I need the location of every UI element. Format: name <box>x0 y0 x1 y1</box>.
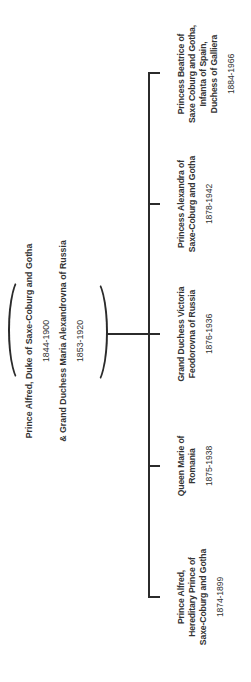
mother-years: 1853-1920 <box>75 191 86 491</box>
mother-name: & Grand Duchess Maria Alexandrovna of Ru… <box>58 191 69 491</box>
child-4-line1: Princess Alexandra of <box>176 144 187 264</box>
child-card-3: Grand Duchess Victoria Feodorovna of Rus… <box>176 274 215 394</box>
parents-bracket-top <box>8 276 22 384</box>
child-card-1: Prince Alfred, Hereditary Prince of Saxe… <box>176 537 226 657</box>
child-3-line1: Grand Duchess Victoria <box>176 274 187 394</box>
child-2-line1: Queen Marie of <box>176 406 187 526</box>
child-4-line2: Saxe-Coburg and Gotha <box>187 144 198 264</box>
child-2-years: 1875-1938 <box>204 406 215 526</box>
child-1-line1: Prince Alfred, <box>176 537 187 657</box>
child-card-2: Queen Marie of Romania 1875-1938 <box>176 406 215 526</box>
father-years: 1844-1900 <box>41 191 52 491</box>
child-2-line2: Romania <box>187 406 198 526</box>
child-5-line4: Duchess of Galliera <box>209 14 220 134</box>
child-tick-3 <box>148 333 160 335</box>
child-5-line1: Princess Beatrice of <box>176 14 187 134</box>
child-tick-4 <box>148 203 160 205</box>
sibling-trunk-line <box>148 72 150 598</box>
father-name: Prince Alfred, Duke of Saxe-Coburg and G… <box>24 191 35 491</box>
child-tick-2 <box>148 465 160 467</box>
child-card-5: Princess Beatrice of Saxe Coburg and Got… <box>176 14 237 134</box>
parents-bracket-bottom <box>94 278 108 386</box>
parents-block: Prince Alfred, Duke of Saxe-Coburg and G… <box>24 191 92 491</box>
child-5-years: 1884-1966 <box>226 14 237 134</box>
child-4-years: 1878-1942 <box>204 144 215 264</box>
child-tick-5 <box>148 72 160 74</box>
child-1-years: 1874-1899 <box>215 537 226 657</box>
child-tick-1 <box>148 596 160 598</box>
child-1-line2: Hereditary Prince of <box>187 537 198 657</box>
child-5-line2: Saxe Coburg and Gotha, <box>187 14 198 134</box>
child-3-line2: Feodorovna of Russia <box>187 274 198 394</box>
child-3-years: 1876-1936 <box>204 274 215 394</box>
child-1-line3: Saxe-Coburg and Gotha <box>198 537 209 657</box>
child-card-4: Princess Alexandra of Saxe-Coburg and Go… <box>176 144 215 264</box>
family-tree-diagram: Prince Alfred, Duke of Saxe-Coburg and G… <box>0 0 251 682</box>
child-5-line3: Infanta of Spain, <box>198 14 209 134</box>
